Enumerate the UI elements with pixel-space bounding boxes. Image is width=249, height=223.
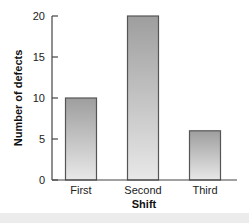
bar-second xyxy=(128,16,159,180)
y-tick-label: 20 xyxy=(33,10,45,22)
bars-group xyxy=(66,16,221,180)
y-tick-label: 15 xyxy=(33,51,45,63)
x-tick-label: Second xyxy=(124,184,161,196)
y-axis: 05101520 xyxy=(33,10,58,186)
y-tick-label: 5 xyxy=(39,133,45,145)
y-axis-title: Number of defects xyxy=(12,50,24,147)
x-tick-label: Third xyxy=(192,184,217,196)
bar-first xyxy=(66,98,97,180)
bar-chart: 05101520 FirstSecondThird Shift Number o… xyxy=(0,0,249,223)
bar-third xyxy=(190,131,221,180)
x-tick-label: First xyxy=(70,184,91,196)
x-axis: FirstSecondThird xyxy=(52,180,237,196)
y-tick-label: 10 xyxy=(33,92,45,104)
x-axis-title: Shift xyxy=(132,198,157,210)
y-tick-label: 0 xyxy=(39,174,45,186)
